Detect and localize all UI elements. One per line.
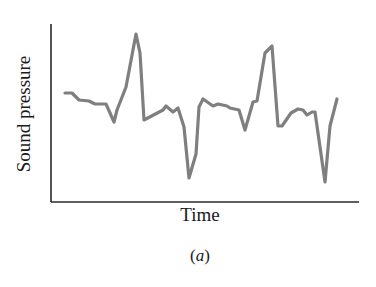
caption-letter: a [196, 246, 205, 265]
plot-area [0, 0, 376, 287]
sound-pressure-waveform [65, 34, 337, 182]
y-axis-label: Sound pressure [4, 26, 44, 202]
x-axis-label: Time [150, 204, 250, 226]
waveform-figure: Sound pressure Time (a) [0, 0, 376, 287]
y-axis-label-text: Sound pressure [13, 56, 35, 173]
caption-close-paren: ) [204, 246, 210, 265]
figure-caption: (a) [150, 246, 250, 266]
